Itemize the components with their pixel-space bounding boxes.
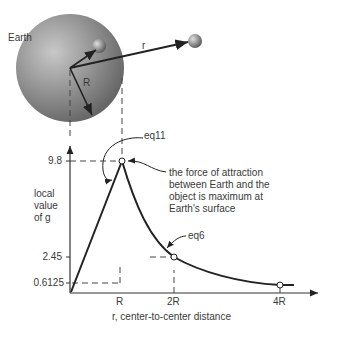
annotation: the force of attraction between Earth an…: [169, 167, 270, 215]
y-tick-2-45: 2.45: [43, 251, 62, 263]
object-distant: [188, 34, 202, 48]
x-tick-2R: 2R: [167, 296, 180, 308]
x-tick-R: R: [116, 296, 123, 308]
y-axis-label: local value of g: [34, 188, 58, 224]
R-radius-label: R: [83, 77, 90, 89]
earth-label: Earth: [8, 32, 32, 44]
y-tick-9-8: 9.8: [48, 155, 62, 167]
x-axis-label: r, center-to-center distance: [112, 311, 231, 323]
x-tick-4R: 4R: [273, 296, 286, 308]
callout-eq6: eq6: [188, 230, 205, 242]
r-vector-label: r: [142, 40, 145, 52]
g-inside-line: [71, 161, 122, 292]
y-tick-0-6125: 0.6125: [33, 277, 64, 289]
callout-eq11: eq11: [144, 130, 166, 142]
